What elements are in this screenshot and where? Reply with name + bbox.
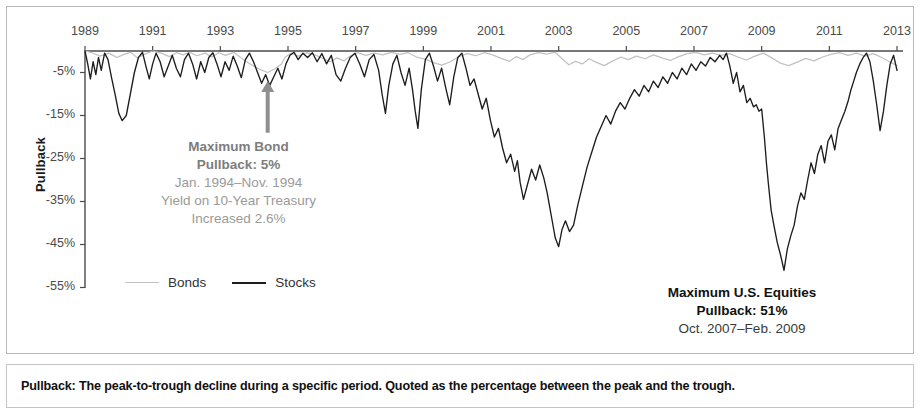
y-tick-label: -45% [7,236,75,250]
x-tick-label: 1991 [123,24,183,38]
annotation-bond-line-2: Pullback: 5% [111,156,366,174]
stocks-line-swatch-icon [232,282,266,284]
x-tick-label: 2001 [461,24,521,38]
legend-item-bonds: Bonds [125,275,206,290]
annotation-bond-line-1: Maximum Bond [111,138,366,156]
series-line-bonds [85,51,897,73]
annotation-equity-line-1: Maximum U.S. Equities [592,284,892,302]
x-tick-label: 1995 [258,24,318,38]
x-tick-label: 2005 [596,24,656,38]
annotation-bond-line-4: Yield on 10-Year Treasury [111,192,366,210]
annotation-equity-line-2: Pullback: 51% [592,302,892,320]
y-tick-label: -15% [7,107,75,121]
annotation-equity-line-3: Oct. 2007–Feb. 2009 [592,320,892,338]
legend-label-bonds: Bonds [168,275,206,290]
x-tick-label: 1999 [393,24,453,38]
chart-figure: 1989199119931995199719992001200320052007… [0,0,921,420]
legend-item-stocks: Stocks [232,275,316,290]
x-tick-label: 2013 [867,24,921,38]
annotation-max-bond-pullback: Maximum Bond Pullback: 5% Jan. 1994–Nov.… [111,138,366,228]
footnote-box: Pullback: The peak-to-trough decline dur… [6,364,914,408]
x-axis-ticks [85,46,897,51]
x-tick-label: 2003 [529,24,589,38]
legend-label-stocks: Stocks [275,275,316,290]
chart-legend: Bonds Stocks [125,275,316,290]
x-tick-label: 2007 [664,24,724,38]
x-tick-label: 2009 [732,24,792,38]
bond-callout-arrow-icon [261,81,274,133]
y-axis-title: Pullback [33,120,48,210]
x-tick-label: 2011 [799,24,859,38]
x-tick-label: 1997 [326,24,386,38]
annotation-bond-line-3: Jan. 1994–Nov. 1994 [111,174,366,192]
bonds-line-swatch-icon [125,282,159,283]
x-tick-label: 1993 [190,24,250,38]
annotation-bond-line-5: Increased 2.6% [111,210,366,228]
y-axis-ticks [80,73,85,288]
y-tick-label: -5% [7,64,75,78]
annotation-max-equities-pullback: Maximum U.S. Equities Pullback: 51% Oct.… [592,284,892,338]
y-tick-label: -55% [7,279,75,293]
footnote-text: Pullback: The peak-to-trough decline dur… [7,379,735,393]
x-tick-label: 1989 [55,24,115,38]
chart-panel: 1989199119931995199719992001200320052007… [6,6,914,354]
